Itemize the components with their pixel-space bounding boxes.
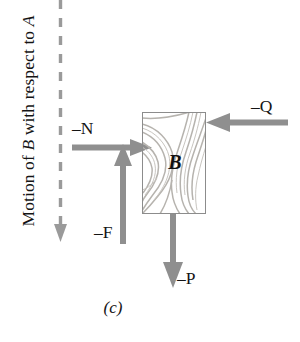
force-arrow-Q: [206, 113, 288, 132]
force-label-N: –N: [72, 120, 93, 138]
free-body-diagram-figure: B Motion of B with respect to A –N –Q –F…: [0, 0, 300, 342]
force-Q-arrowhead-icon: [206, 113, 230, 132]
block-B-label: B: [143, 113, 206, 214]
force-label-Q: –Q: [251, 98, 272, 116]
force-arrow-N: [72, 139, 152, 156]
figure-caption: (c): [0, 298, 226, 318]
motion-label-middle: with respect to: [18, 26, 38, 139]
force-arrow-F: [114, 144, 132, 244]
motion-arrowhead-icon: [54, 224, 67, 242]
force-Q-shaft: [226, 120, 288, 126]
motion-label-prefix: Motion of: [18, 151, 38, 227]
block-B: B: [142, 112, 206, 214]
force-label-P: –P: [177, 270, 195, 288]
motion-label-reference: A: [18, 16, 38, 27]
motion-direction-dashed-arrow: [54, 0, 67, 242]
force-label-F: –F: [94, 224, 112, 242]
motion-label-body: B: [18, 140, 38, 151]
force-P-shaft: [170, 214, 176, 268]
force-F-shaft: [120, 158, 126, 244]
motion-of-b-label: Motion of B with respect to A: [15, 1, 41, 241]
